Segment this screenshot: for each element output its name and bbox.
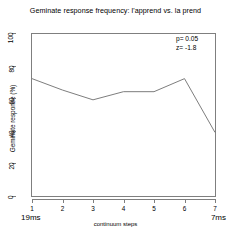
data-series-line [0,0,231,236]
series-polyline [32,79,215,133]
chart-figure: Geminate response frequency: l'apprend v… [0,0,231,236]
